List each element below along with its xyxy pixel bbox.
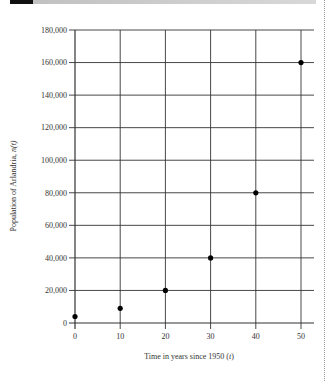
- x-axis-label: Time in years since 1950 (t): [144, 352, 234, 361]
- y-tick-label: 120,000: [41, 123, 67, 132]
- x-axis-ticks: 01020304050: [73, 332, 305, 341]
- chart-grid: [69, 30, 314, 329]
- x-tick-label: 0: [73, 332, 77, 341]
- y-tick-label: 140,000: [41, 91, 67, 100]
- y-tick-label: 20,000: [45, 286, 67, 295]
- data-point: [72, 314, 77, 319]
- y-axis-ticks: 020,00040,00060,00080,000100,000120,0001…: [41, 26, 67, 328]
- x-tick-label: 40: [252, 332, 260, 341]
- y-axis-label: Population of Arlandria, n(t): [9, 140, 18, 231]
- data-point: [298, 60, 303, 65]
- data-point: [118, 306, 123, 311]
- y-tick-label: 180,000: [41, 26, 67, 35]
- y-tick-label: 80,000: [45, 189, 67, 198]
- x-tick-label: 10: [116, 332, 124, 341]
- y-tick-label: 40,000: [45, 254, 67, 263]
- scatter-chart: 020,00040,00060,00080,000100,000120,0001…: [0, 0, 333, 381]
- y-tick-label: 0: [63, 319, 67, 328]
- x-tick-label: 20: [161, 332, 169, 341]
- data-points: [72, 60, 303, 319]
- y-tick-label: 60,000: [45, 221, 67, 230]
- y-tick-label: 160,000: [41, 58, 67, 67]
- data-point: [163, 288, 168, 293]
- y-tick-label: 100,000: [41, 156, 67, 165]
- x-tick-label: 50: [297, 332, 305, 341]
- x-tick-label: 30: [207, 332, 215, 341]
- data-point: [208, 255, 213, 260]
- data-point: [253, 190, 258, 195]
